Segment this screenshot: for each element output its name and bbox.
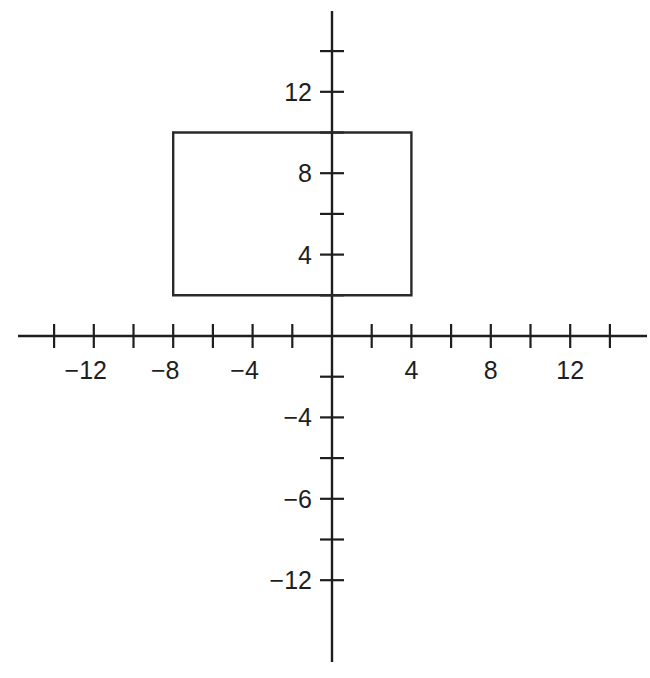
x-tick-label: −12	[65, 356, 107, 384]
shapes	[173, 133, 411, 296]
y-tick-label: 12	[284, 78, 312, 106]
x-axis-labels: −12−8−44812	[65, 356, 585, 384]
x-tick-label: −8	[151, 356, 180, 384]
x-tick-label: −4	[230, 356, 259, 384]
x-tick-label: 8	[484, 356, 498, 384]
y-tick-label: 4	[298, 241, 312, 269]
rectangle	[173, 133, 411, 296]
y-tick-label: −4	[283, 403, 312, 431]
y-tick-label: −6	[283, 485, 312, 513]
y-tick-label: −12	[270, 566, 312, 594]
y-tick-label: 8	[298, 159, 312, 187]
x-tick-label: 4	[404, 356, 418, 384]
coordinate-plane: −12−8−44812 1284−4−6−12	[0, 0, 650, 678]
x-tick-label: 12	[556, 356, 584, 384]
